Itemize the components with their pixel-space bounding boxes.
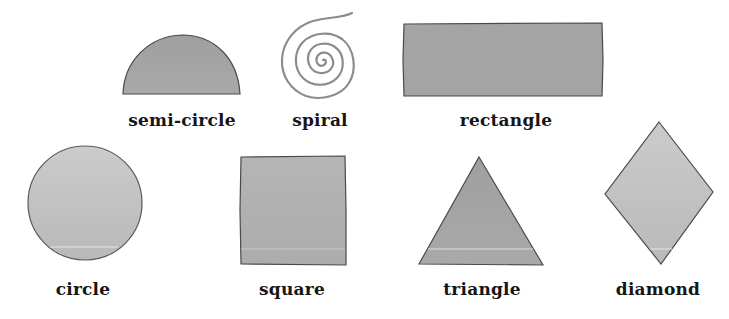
label-spiral: spiral	[240, 110, 400, 130]
label-semi-circle: semi-circle	[102, 110, 262, 130]
label-triangle: triangle	[402, 279, 562, 299]
spiral-shape	[282, 13, 354, 98]
semi-circle-shape	[123, 35, 240, 94]
circle-shape	[28, 146, 142, 260]
label-circle: circle	[3, 279, 163, 299]
rectangle-shape	[403, 23, 603, 96]
label-square: square	[212, 279, 372, 299]
label-rectangle: rectangle	[426, 110, 586, 130]
label-diamond: diamond	[578, 279, 729, 299]
diamond-shape	[605, 122, 713, 264]
shapes-illustration	[0, 0, 729, 319]
